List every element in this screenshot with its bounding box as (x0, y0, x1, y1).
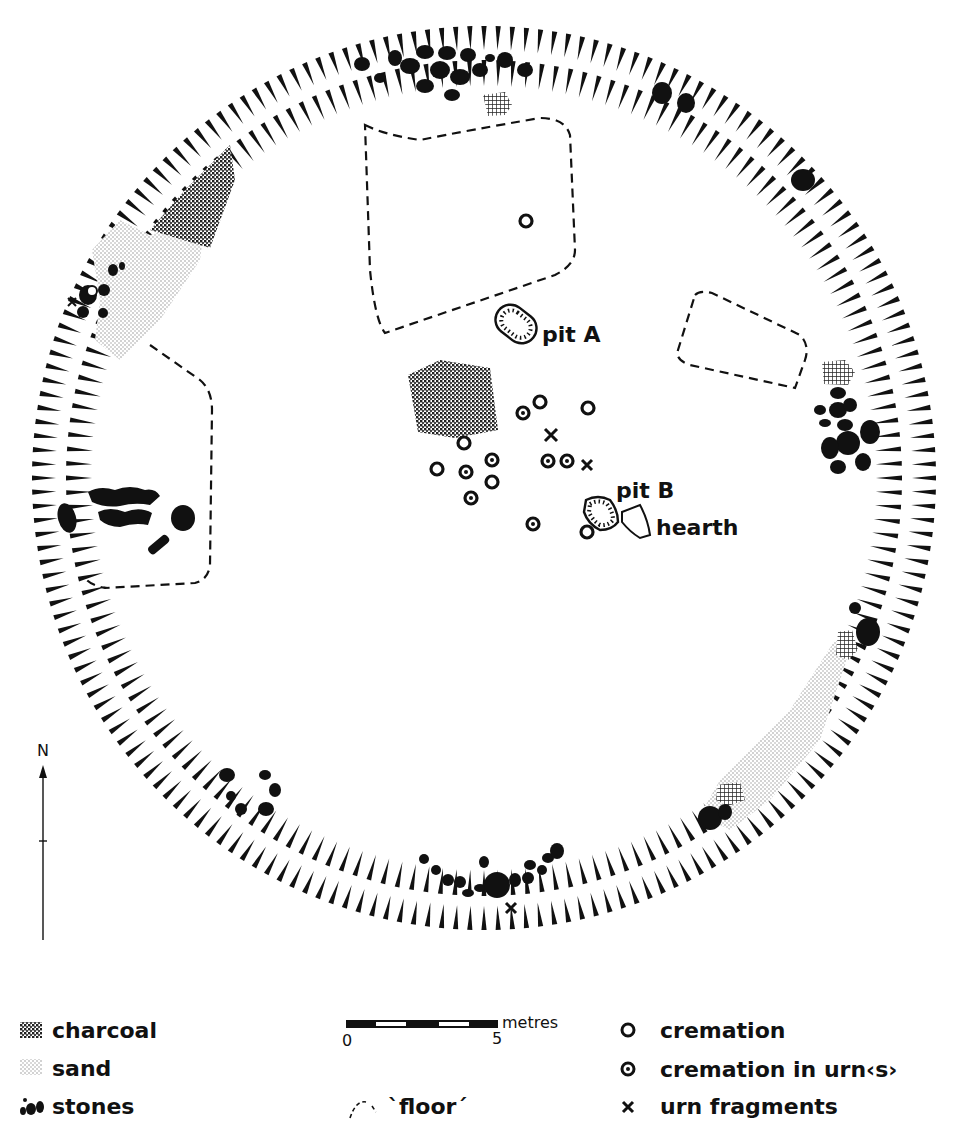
cremation-urn-symbol-icon (622, 1063, 634, 1075)
urn-fragment-symbol-icon (623, 1102, 633, 1112)
stones-swatch-icon (20, 1098, 44, 1115)
charcoal-spread-northwest (150, 145, 235, 248)
scale-start: 0 (342, 1031, 352, 1050)
scale-end: 5 (492, 1029, 502, 1048)
scale-bar: metres 0 5 (342, 1013, 558, 1050)
floor-west (85, 345, 212, 588)
charcoal-spread-north (483, 92, 512, 116)
legend-cremation-urn: cremation in urn‹s› (660, 1057, 897, 1082)
pit-a (489, 299, 542, 350)
charcoal-swatch (20, 1022, 42, 1038)
cremation-in-stones-nw (87, 286, 97, 296)
urn-fragments (68, 298, 592, 913)
north-label: N (37, 741, 49, 760)
charcoal-spread-southeast-a (836, 630, 858, 660)
outer-bank-hachure (32, 26, 936, 930)
cremation-symbol-icon (622, 1024, 634, 1036)
floor-swatch-icon (350, 1102, 376, 1118)
legend: charcoal sand stones metres 0 5 `floor´ … (20, 1013, 897, 1119)
legend-sand: sand (52, 1056, 111, 1081)
floor-east (678, 292, 807, 388)
label-hearth: hearth (656, 515, 738, 540)
north-arrow: N (37, 741, 49, 940)
label-pit-b: pit B (616, 478, 674, 503)
site-plan: pit A pit B hearth N charcoal sand stone… (0, 0, 956, 1144)
charcoal-spread-east (822, 360, 855, 385)
legend-stones: stones (52, 1094, 134, 1119)
hearth (622, 505, 650, 538)
label-pit-a: pit A (542, 322, 601, 347)
floor-north (365, 118, 575, 333)
legend-cremation: cremation (660, 1018, 785, 1043)
legend-floor: `floor´ (388, 1094, 467, 1119)
sand-swatch (20, 1059, 42, 1075)
legend-charcoal: charcoal (52, 1018, 157, 1043)
legend-urn-fragments: urn fragments (660, 1094, 838, 1119)
charcoal-spread-central (408, 360, 498, 438)
scale-unit: metres (502, 1013, 558, 1032)
